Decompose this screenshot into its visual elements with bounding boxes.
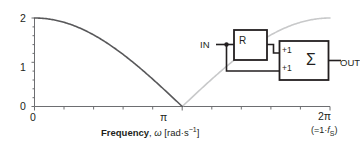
x-axis-title-bold: Frequency <box>101 127 149 138</box>
series-line-principal <box>35 18 183 107</box>
x-tick-label-pi: π <box>160 112 167 123</box>
delay-block-label: R <box>239 36 246 46</box>
wire-delay-to-summer <box>267 45 280 54</box>
block-input-label: IN <box>200 40 210 50</box>
block-diagram <box>216 30 341 80</box>
note-open: (=1· <box>311 125 327 135</box>
x-axis-title-units-open: [rad·s <box>162 127 189 138</box>
gain-top-label: +1 <box>282 46 292 55</box>
x-tick-label-2pi: 2π <box>318 111 331 122</box>
y-tick-label-1: 1 <box>20 62 26 73</box>
gain-bottom-label: +1 <box>282 64 292 73</box>
x-tick-label-zero: 0 <box>30 112 36 123</box>
note-close: ) <box>334 125 337 135</box>
x-axis-title: Frequency, ω [rad·s−1] <box>101 126 199 138</box>
x-axis-title-units-close: ] <box>197 127 200 138</box>
y-tick-label-2: 2 <box>20 13 26 24</box>
x-axis-title-omega: ω <box>154 127 161 138</box>
summer-symbol-label: Σ <box>306 52 316 68</box>
x-axis-title-comma: , <box>149 127 152 138</box>
x-axis-title-units-exponent: −1 <box>189 126 197 133</box>
x-tick-label-sampling-note: (=1·fS) <box>311 126 337 137</box>
y-tick-label-0: 0 <box>20 101 26 112</box>
block-output-label: OUT <box>340 58 360 68</box>
